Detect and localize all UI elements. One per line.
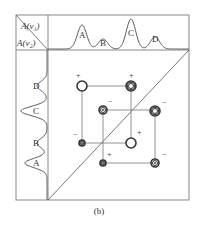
cross-peak: +	[99, 150, 112, 167]
2d-correlation-diagram: ABCD DCBA ++−−−++− A(ν₁) A(ν₂)	[0, 0, 198, 232]
top-spectrum: ABCD	[48, 19, 189, 49]
sign-label: −	[73, 130, 78, 139]
peak-label-C: C	[33, 106, 39, 116]
top-spectrum-curve	[48, 19, 189, 49]
axis-label-nu1: A(ν₁)	[20, 21, 40, 31]
peak-label-D: D	[33, 81, 40, 91]
peak-label-D: D	[152, 34, 159, 44]
cross-peak: +	[76, 71, 88, 92]
cross-peak: −	[98, 97, 113, 115]
contour-center	[154, 162, 156, 164]
left-spectrum-curve	[21, 50, 47, 200]
sign-label: +	[76, 71, 81, 80]
contour-center	[81, 142, 83, 144]
main-diagonal	[48, 50, 189, 200]
sign-label: −	[162, 98, 167, 107]
peak-label-C: C	[128, 28, 134, 38]
sign-label: −	[162, 150, 167, 159]
cross-peak: −	[149, 98, 167, 117]
peak-label-A: A	[79, 30, 86, 40]
peak-label-A: A	[33, 158, 40, 168]
left-spectrum: DCBA	[21, 50, 47, 200]
sign-label: +	[129, 71, 134, 80]
axis-label-nu2: A(ν₂)	[16, 38, 36, 48]
cross-peak: +	[125, 71, 136, 92]
peak-label-B: B	[33, 138, 39, 148]
peak-label-B: B	[100, 38, 106, 48]
cross-peak: −	[73, 130, 86, 147]
cross-peak: −	[150, 150, 167, 168]
figure-caption: (b)	[0, 206, 198, 216]
cross-peak: +	[125, 128, 142, 149]
sign-label: −	[108, 97, 113, 106]
contour-center	[102, 162, 104, 164]
sign-label: +	[107, 150, 112, 159]
sign-label: +	[137, 128, 142, 137]
contour-center	[102, 109, 104, 111]
cross-peaks: ++−−−++−	[73, 71, 167, 168]
